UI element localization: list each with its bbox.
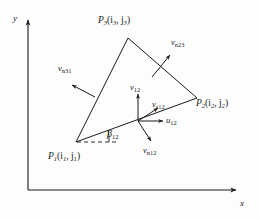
x-axis-label: x: [240, 199, 244, 208]
vector-label-vn12: vn12: [143, 146, 156, 155]
vertex-p2-mid: , j: [214, 98, 221, 108]
vertex-p1-close: ): [77, 151, 80, 161]
vertex-p2-letter: P: [196, 98, 202, 108]
vn12-sub: n12: [147, 149, 157, 156]
vertex-p2-j-index: 2: [222, 102, 225, 109]
vertex-p1-j-index: 1: [74, 155, 77, 162]
vertex-p1-i-index: 1: [63, 155, 66, 162]
vector-label-vn23: vn23: [171, 38, 184, 47]
vertex-p1-mid: , j: [66, 151, 73, 161]
y-axis-label: y: [13, 14, 17, 23]
vertex-label-p1: P1(i1, j1): [48, 152, 80, 162]
vector-label-v12: v12: [130, 83, 140, 92]
angle-label-beta12: β12: [107, 129, 118, 139]
vn31-sub: n31: [62, 67, 72, 74]
vertex-p3-letter: P: [98, 15, 104, 25]
vertex-p3-i-index: 3: [113, 19, 116, 26]
vertex-p1-index: 1: [54, 155, 57, 162]
vector-label-vn31: vn31: [58, 64, 71, 73]
vertex-p3-j-index: 3: [124, 19, 127, 26]
vertex-p2-i-index: 2: [211, 102, 214, 109]
vertex-p2-index: 2: [202, 102, 205, 109]
vertex-p2-close: ): [225, 98, 228, 108]
vector-arrow-vn12: [138, 121, 151, 141]
vector-label-u12: u12: [166, 116, 177, 125]
vn23-sub: n23: [175, 41, 185, 48]
vertex-p1-letter: P: [48, 151, 54, 161]
vector-arrow-vs12: [138, 108, 158, 121]
u12-sub: 12: [170, 119, 176, 126]
vs12-sub: s12: [156, 103, 165, 110]
beta12-sub: 12: [112, 133, 118, 140]
vector-arrow-vn31: [72, 85, 95, 97]
vertex-p3-mid: , j: [116, 15, 123, 25]
figure-canvas: [0, 0, 259, 219]
geometry-figure: y x P3(i3, j3) P2(i2, j2) P1(i1, j1) vn2…: [0, 0, 259, 219]
vector-arrow-vn23: [152, 55, 170, 77]
vertex-label-p2: P2(i2, j2): [196, 99, 228, 109]
vertex-label-p3: P3(i3, j3): [98, 16, 130, 26]
vertex-p3-close: ): [127, 15, 130, 25]
vector-label-vs12: vs12: [152, 100, 165, 109]
vertex-p3-index: 3: [104, 19, 107, 26]
v12-sub: 12: [134, 86, 140, 93]
